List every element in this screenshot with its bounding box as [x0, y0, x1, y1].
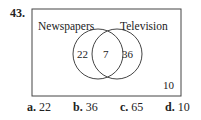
newspapers-label: Newspapers	[38, 20, 95, 33]
outside-value: 10	[163, 79, 175, 91]
television-circle	[92, 29, 142, 79]
television-only-value: 36	[122, 48, 134, 60]
newspapers-only-value: 22	[77, 48, 88, 60]
choice-c[interactable]: c.65	[120, 100, 143, 115]
choice-a[interactable]: a.22	[27, 100, 51, 115]
choice-b[interactable]: b.36	[73, 100, 98, 115]
choice-d[interactable]: d.10	[165, 100, 190, 115]
intersection-value: 7	[103, 48, 109, 60]
television-label: Television	[120, 20, 168, 32]
